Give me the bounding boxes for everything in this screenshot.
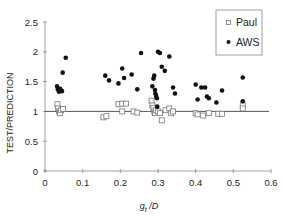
paul-data-point — [220, 111, 225, 116]
paul-data-point — [149, 98, 154, 103]
legend-label-aws: AWS — [236, 36, 260, 48]
paul-data-point — [135, 110, 140, 115]
y-tick-label: 2 — [33, 46, 38, 57]
aws-data-point — [122, 76, 127, 81]
paul-data-point — [206, 111, 211, 116]
x-tick-label: 0.1 — [76, 177, 89, 188]
paul-data-point — [123, 101, 128, 106]
aws-data-point — [107, 78, 112, 83]
paul-data-point — [195, 112, 200, 117]
scatter-chart: 00.511.522.500.10.20.30.40.50.6 TEST/PRE… — [0, 0, 286, 217]
aws-data-point — [155, 96, 160, 101]
aws-data-point — [120, 66, 125, 71]
paul-data-point — [157, 111, 162, 116]
y-axis-title: TEST/PREDICTION — [5, 72, 15, 153]
aws-data-point — [162, 69, 167, 74]
y-tick-label: 0.5 — [25, 136, 38, 147]
x-axis-label-rest: /D — [147, 201, 159, 211]
aws-data-point — [152, 73, 157, 78]
aws-data-point — [63, 55, 68, 60]
aws-data-point — [167, 54, 172, 59]
aws-data-point — [171, 85, 176, 90]
paul-data-point — [104, 114, 109, 119]
aws-data-point — [159, 64, 164, 69]
aws-data-point — [60, 70, 65, 75]
x-axis-title: gt /D — [140, 201, 159, 213]
x-tick-label: 0.2 — [114, 177, 127, 188]
aws-data-point — [158, 51, 163, 56]
aws-data-point — [103, 73, 108, 78]
aws-data-point — [193, 82, 198, 87]
aws-data-point — [207, 96, 212, 101]
paul-data-point — [61, 107, 66, 112]
aws-data-point — [129, 72, 134, 77]
aws-data-point — [173, 91, 178, 96]
x-tick-label: 0.6 — [264, 177, 277, 188]
paul-data-point — [171, 109, 176, 114]
aws-data-point — [135, 87, 140, 92]
paul-data-point — [201, 113, 206, 118]
aws-data-point — [116, 81, 121, 86]
paul-data-point — [159, 118, 164, 123]
y-tick-label: 2.5 — [25, 17, 38, 28]
y-tick-label: 1 — [33, 106, 38, 117]
paul-data-point — [240, 106, 245, 111]
aws-data-point — [203, 85, 208, 90]
legend: Paul AWS — [216, 10, 262, 55]
svg-text:gt /D: gt /D — [140, 201, 159, 213]
y-axis-label: TEST/PREDICTION — [5, 72, 15, 153]
aws-data-point — [60, 89, 65, 94]
aws-data-point — [139, 51, 144, 56]
aws-data-point — [195, 97, 200, 102]
aws-data-point — [240, 75, 245, 80]
legend-filled-circle-icon — [227, 40, 231, 44]
aws-data-point — [220, 88, 225, 93]
x-tick-label: 0.3 — [151, 177, 164, 188]
aws-data-point — [240, 99, 245, 104]
legend-open-square-icon — [227, 21, 231, 25]
y-tick-label: 0 — [33, 166, 38, 177]
y-tick-label: 1.5 — [25, 76, 38, 87]
aws-data-point — [214, 100, 219, 105]
x-tick-label: 0 — [42, 177, 47, 188]
legend-label-paul: Paul — [236, 16, 257, 28]
x-tick-label: 0.4 — [189, 177, 202, 188]
aws-data-point — [155, 104, 160, 109]
paul-data-point — [120, 109, 125, 114]
x-tick-label: 0.5 — [227, 177, 240, 188]
